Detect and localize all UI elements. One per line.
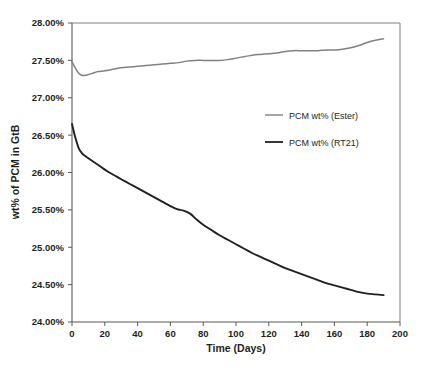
y-axis-title: wt% of PCM in GtB bbox=[9, 124, 21, 220]
x-tick-label: 20 bbox=[100, 328, 111, 339]
y-tick-label: 24.50% bbox=[32, 279, 65, 290]
y-tick-label: 26.00% bbox=[32, 167, 65, 178]
y-tick-label: 28.00% bbox=[32, 17, 65, 28]
x-tick-label: 80 bbox=[198, 328, 209, 339]
line-chart: 24.00%24.50%25.00%25.50%26.00%26.50%27.0… bbox=[0, 0, 424, 370]
legend-label-ester: PCM wt% (Ester) bbox=[289, 111, 358, 121]
y-tick-label: 27.00% bbox=[32, 92, 65, 103]
y-tick-label: 24.00% bbox=[32, 316, 65, 327]
x-tick-label: 200 bbox=[392, 328, 408, 339]
y-tick-label: 27.50% bbox=[32, 55, 65, 66]
x-tick-label: 140 bbox=[294, 328, 310, 339]
x-tick-label: 180 bbox=[359, 328, 375, 339]
x-tick-label: 0 bbox=[69, 328, 74, 339]
x-tick-label: 40 bbox=[132, 328, 143, 339]
chart-container: 24.00%24.50%25.00%25.50%26.00%26.50%27.0… bbox=[0, 0, 424, 370]
y-tick-label: 26.50% bbox=[32, 130, 65, 141]
y-tick-label: 25.50% bbox=[32, 204, 65, 215]
x-tick-label: 120 bbox=[261, 328, 277, 339]
legend-label-rt21: PCM wt% (RT21) bbox=[289, 138, 359, 148]
y-tick-label: 25.00% bbox=[32, 242, 65, 253]
x-tick-label: 160 bbox=[326, 328, 342, 339]
x-tick-label: 60 bbox=[165, 328, 176, 339]
x-axis-title: Time (Days) bbox=[206, 342, 265, 354]
x-tick-label: 100 bbox=[228, 328, 244, 339]
